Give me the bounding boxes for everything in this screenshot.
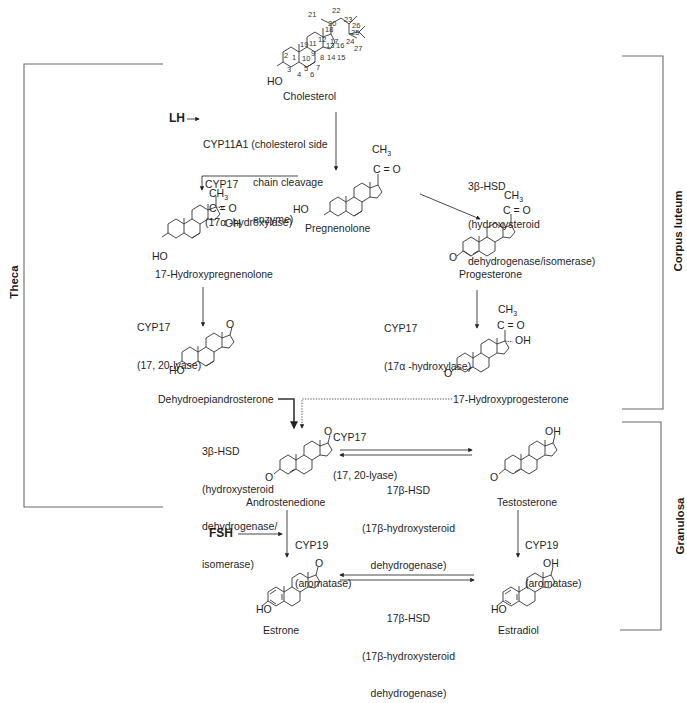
cholesterol-ho: HO <box>267 75 283 87</box>
corpus-luteum-bracket <box>622 56 663 409</box>
granulosa-label: Granulosa <box>674 494 686 558</box>
svg-text:20: 20 <box>328 19 336 28</box>
svg-text:10: 10 <box>302 54 310 63</box>
svg-text:9: 9 <box>311 49 315 58</box>
estrone-name: Estrone <box>263 624 299 637</box>
enzyme-17b-hsd-bottom: 17β-HSD (17β-hydroxysteroid dehydrogenas… <box>362 587 455 703</box>
svg-text:14: 14 <box>327 53 335 62</box>
testosterone-o: O <box>490 471 498 484</box>
cholesterol-name: Cholesterol <box>283 90 336 103</box>
lh-label: LH <box>169 112 185 125</box>
svg-text:17: 17 <box>330 37 338 46</box>
hydroxypregnenolone-co: C = O <box>209 202 237 215</box>
svg-text:8: 8 <box>320 53 324 62</box>
estradiol-name: Estradiol <box>498 624 539 637</box>
svg-text:15: 15 <box>337 53 345 62</box>
granulosa-bracket <box>620 422 661 630</box>
svg-text:4: 4 <box>297 70 301 79</box>
svg-text:6: 6 <box>310 70 314 79</box>
hydroxypregnenolone-ho: HO <box>152 250 168 263</box>
svg-text:11: 11 <box>309 39 317 48</box>
hydroxypregnenolone-name: 17-Hydroxypregnenolone <box>155 268 273 281</box>
enzyme-cyp19-left: CYP19 (aromatase) <box>295 514 352 602</box>
hydroxyprogesterone-oh: OH <box>515 334 531 347</box>
svg-text:26: 26 <box>352 21 360 30</box>
estrone-o: O <box>315 557 323 570</box>
enzyme-17b-hsd-top: 17β-HSD (17β-hydroxysteroid dehydrogenas… <box>362 459 455 584</box>
pregnenolone-structure <box>324 174 382 216</box>
hydroxyprogesterone-co: C = O <box>497 319 525 332</box>
svg-text:7: 7 <box>316 63 320 72</box>
enzyme-3b-hsd-top: 3β-HSD (hydroxysteroid dehydrogenase/iso… <box>468 155 595 280</box>
progesterone-o: O <box>449 251 457 264</box>
progesterone-co: C = O <box>503 204 531 217</box>
theca-bracket <box>24 64 163 507</box>
svg-text:27: 27 <box>354 44 362 53</box>
svg-text:3: 3 <box>287 65 291 74</box>
testosterone-name: Testosterone <box>497 496 557 509</box>
pregnenolone-ch3: CH3 <box>372 143 391 161</box>
estradiol-ho: HO <box>491 603 507 616</box>
estrone-ho: HO <box>256 603 272 616</box>
pregnenolone-ho: HO <box>293 203 309 216</box>
enzyme-3b-hsd-mid: 3β-HSD (hydroxysteroid dehydrogenase/ is… <box>202 420 277 583</box>
dhea-ho: HO <box>169 364 185 377</box>
svg-text:2: 2 <box>284 51 288 60</box>
hydroxyprogesterone-o: O <box>444 367 452 380</box>
enzyme-cyp17-hydroxylase-right: CYP17 (17α -hydroxylase) <box>384 297 471 385</box>
svg-text:5: 5 <box>304 64 308 73</box>
dhea-o: O <box>226 318 234 331</box>
pregnenolone-co: C = O <box>373 163 401 176</box>
svg-text:1: 1 <box>292 53 296 62</box>
androstenedione-o: O <box>265 471 273 484</box>
testosterone-structure <box>499 435 557 474</box>
svg-text:22: 22 <box>332 6 340 15</box>
testosterone-oh: OH <box>545 425 561 438</box>
estradiol-oh: OH <box>543 557 559 570</box>
cholesterol-numbering: 123 456 789 101112 131415 161718 192021 … <box>284 6 362 79</box>
corpus-luteum-label: Corpus luteum <box>672 186 684 276</box>
svg-text:21: 21 <box>308 10 316 19</box>
hydroxyprogesterone-ch3: CH3 <box>498 303 517 321</box>
hydroxypregnenolone-oh: OH <box>225 217 241 230</box>
androstenedione-o-top: O <box>324 425 332 438</box>
androstenedione-structure <box>274 435 332 474</box>
hydroxyprogesterone-name: 17-Hydroxyprogesterone <box>453 393 569 406</box>
dhea-name: Dehydroepiandrosterone <box>158 393 274 406</box>
svg-text:19: 19 <box>300 40 308 49</box>
arrow-dhea-androstenedione <box>278 399 294 428</box>
theca-label: Theca <box>8 262 20 302</box>
